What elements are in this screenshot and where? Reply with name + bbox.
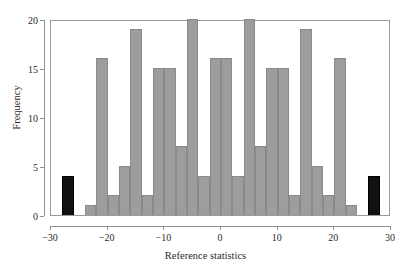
y-axis-line [44, 20, 45, 216]
histogram-bar [232, 176, 243, 215]
histogram-bar [85, 205, 96, 215]
histogram-bar [289, 195, 300, 215]
histogram-bar [210, 58, 221, 215]
y-tick [40, 20, 44, 21]
histogram-bar [266, 68, 277, 215]
histogram-bar [198, 176, 209, 215]
histogram-bar [164, 68, 175, 215]
x-tick [277, 226, 278, 230]
y-tick-label: 10 [28, 113, 38, 124]
x-tick [107, 226, 108, 230]
plot-area [50, 20, 390, 216]
histogram-bar [142, 195, 153, 215]
histogram-bar [187, 19, 198, 215]
y-tick-label: 15 [28, 64, 38, 75]
x-tick [220, 226, 221, 230]
x-tick-label: 10 [272, 232, 282, 243]
x-axis-title: Reference statistics [0, 250, 411, 261]
bars-layer [51, 21, 389, 215]
histogram-bar [244, 19, 255, 215]
histogram-bar [300, 29, 311, 215]
histogram-bar [323, 195, 334, 215]
histogram-figure: −30−20−100102030 05101520 Reference stat… [0, 0, 411, 272]
histogram-bar [96, 58, 107, 215]
x-tick-label: 0 [218, 232, 223, 243]
x-tick-label: −10 [156, 232, 172, 243]
histogram-bar [119, 166, 130, 215]
histogram-bar [108, 195, 119, 215]
y-tick [40, 118, 44, 119]
y-tick-label: 20 [28, 15, 38, 26]
y-tick [40, 69, 44, 70]
histogram-bar [278, 68, 289, 215]
histogram-bar [312, 166, 323, 215]
x-tick-label: −20 [99, 232, 115, 243]
y-tick [40, 167, 44, 168]
y-axis-title: Frequency [11, 48, 22, 168]
histogram-bar [346, 205, 357, 215]
histogram-bar [130, 29, 141, 215]
histogram-bar [176, 146, 187, 215]
y-tick-label: 5 [33, 162, 38, 173]
histogram-bar [334, 58, 345, 215]
histogram-bar [153, 68, 164, 215]
histogram-bar [62, 176, 73, 215]
x-tick [333, 226, 334, 230]
x-tick [50, 226, 51, 230]
x-tick-label: 20 [328, 232, 338, 243]
x-tick [163, 226, 164, 230]
histogram-bar [221, 58, 232, 215]
x-tick-label: −30 [42, 232, 58, 243]
histogram-bar [368, 176, 379, 215]
histogram-bar [255, 146, 266, 215]
x-tick-label: 30 [385, 232, 395, 243]
y-tick-label: 0 [33, 211, 38, 222]
x-tick [390, 226, 391, 230]
y-tick [40, 216, 44, 217]
